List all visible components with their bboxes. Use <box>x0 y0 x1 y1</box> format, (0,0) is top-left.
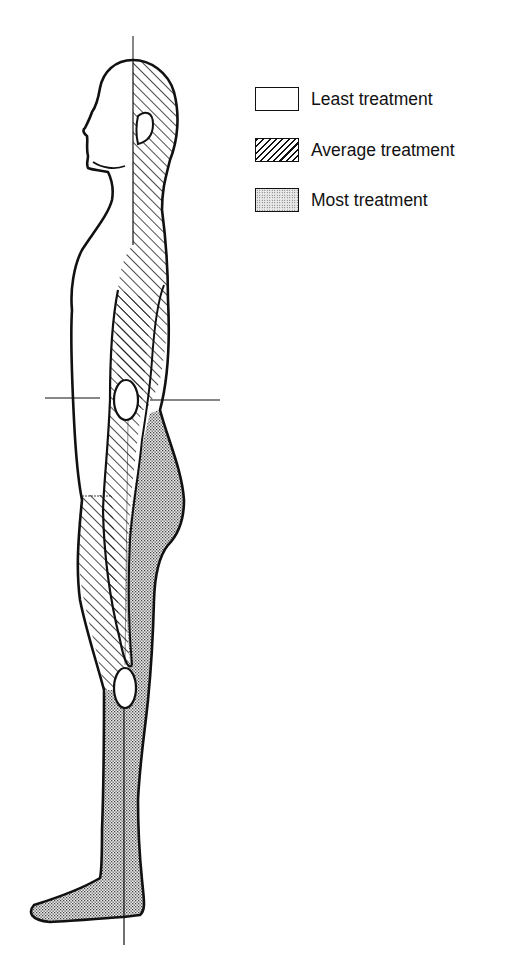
dotted-swatch-icon <box>255 188 299 212</box>
blank-swatch-icon <box>255 87 299 111</box>
legend-item-most: Most treatment <box>255 189 428 211</box>
knee-joint-marker <box>114 668 136 708</box>
legend-label: Average treatment <box>311 140 455 161</box>
legend-label: Least treatment <box>311 89 433 110</box>
jaw-line <box>93 162 125 168</box>
legend-item-average: Average treatment <box>255 139 455 161</box>
legend-label: Most treatment <box>311 190 428 211</box>
hip-joint-marker <box>114 380 138 420</box>
hatched-swatch-icon <box>255 138 299 162</box>
legend-item-least: Least treatment <box>255 88 433 110</box>
